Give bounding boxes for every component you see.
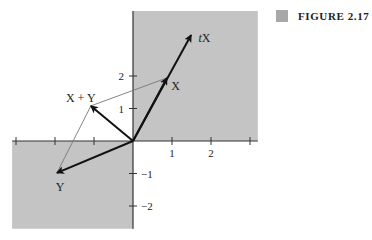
vector-label: X	[171, 79, 180, 93]
vector-label: tX	[199, 31, 211, 45]
x-tick-label: 1	[169, 147, 175, 159]
y-tick-label: −1	[141, 168, 153, 180]
vector-diagram: 1221−1−2 tXXX + YY	[0, 0, 372, 240]
y-tick-label: −2	[141, 200, 153, 212]
vector-label: Y	[56, 180, 65, 194]
x-tick-label: 2	[208, 147, 214, 159]
shaded-quadrants	[12, 11, 258, 229]
vector-label: X + Y	[66, 91, 96, 105]
first-quadrant-shade	[133, 11, 258, 141]
y-tick-label: 1	[119, 103, 125, 115]
y-tick-label: 2	[119, 70, 125, 82]
vector-x-plus-y	[91, 106, 133, 141]
third-quadrant-shade	[12, 141, 133, 229]
